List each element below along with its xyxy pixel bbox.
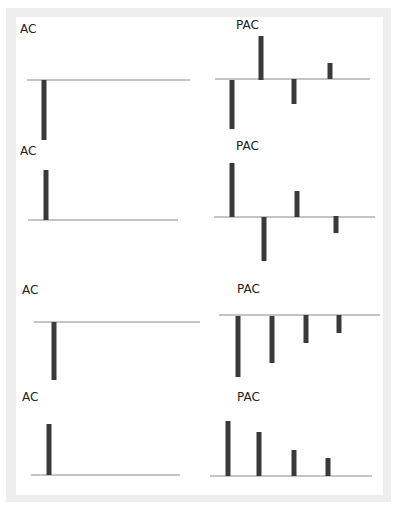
panel-row4-right (210, 421, 372, 476)
lag-bar (230, 163, 235, 217)
panel-row2-left (28, 170, 178, 220)
lag-bar (326, 458, 331, 476)
panel-row2-right (214, 163, 375, 261)
pac-label: PAC (236, 139, 259, 153)
lag-bar (328, 63, 333, 79)
lag-bar (52, 322, 57, 380)
panel-row1-right (215, 36, 370, 129)
ac-label: AC (22, 283, 38, 297)
panel-row4-left (31, 424, 180, 475)
lag-bar (334, 216, 339, 233)
lag-bar (270, 316, 275, 363)
lag-bar (226, 421, 231, 476)
panel-row3-left (34, 322, 200, 380)
lag-bar (292, 79, 297, 104)
pac-label: PAC (237, 390, 260, 404)
lag-bar (292, 450, 297, 476)
lag-bar (236, 316, 241, 377)
pac-label: PAC (236, 18, 259, 32)
ac-label: AC (22, 390, 38, 404)
panel-row1-left (27, 80, 190, 140)
lag-bar (259, 36, 264, 80)
lag-bar (337, 315, 342, 333)
lag-bar (257, 432, 262, 476)
lag-bar (42, 80, 47, 140)
lag-bar (44, 170, 49, 220)
correlogram-grid: ACPACACPACACPACACPAC (0, 0, 395, 506)
panel-row3-right (219, 315, 380, 377)
pac-label: PAC (237, 282, 260, 296)
lag-bar (304, 315, 309, 343)
lag-bar (295, 191, 300, 217)
lag-bar (47, 424, 52, 475)
lag-bar (262, 217, 267, 261)
lag-bar (230, 80, 235, 129)
ac-label: AC (20, 22, 36, 36)
ac-label: AC (20, 144, 36, 158)
